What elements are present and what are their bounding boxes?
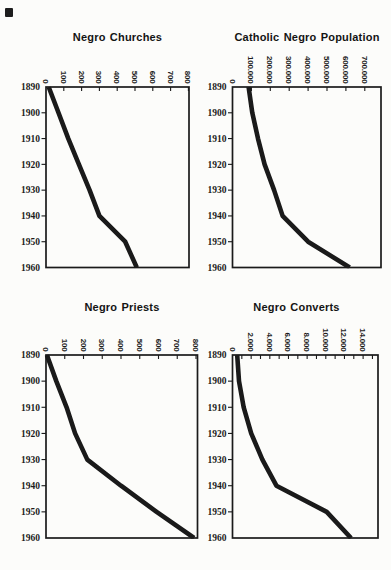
year-label: 1900 bbox=[208, 376, 227, 386]
year-label: 1940 bbox=[208, 211, 227, 221]
year-label: 1950 bbox=[208, 507, 227, 517]
value-tick-label: 0 bbox=[228, 347, 237, 352]
value-tick-label: 0 bbox=[228, 79, 237, 84]
data-line bbox=[249, 87, 350, 268]
value-tick-label: 600 bbox=[154, 339, 163, 352]
year-label: 1890 bbox=[208, 350, 227, 360]
chart-plot-negro-priests: 0100200300400500600700800189019001910192… bbox=[21, 339, 200, 544]
year-label: 1890 bbox=[21, 350, 40, 360]
year-label: 1950 bbox=[21, 507, 40, 517]
data-line bbox=[237, 355, 351, 538]
year-label: 1900 bbox=[208, 108, 227, 118]
year-label: 1890 bbox=[21, 82, 40, 92]
year-label: 1890 bbox=[208, 82, 227, 92]
year-label: 1910 bbox=[21, 403, 40, 413]
year-label: 1950 bbox=[208, 237, 227, 247]
charts-canvas: 0100200300400500600700800189019001910192… bbox=[0, 0, 391, 570]
year-label: 1920 bbox=[21, 429, 40, 439]
year-label: 1910 bbox=[208, 134, 227, 144]
value-tick-label: 300 bbox=[97, 339, 106, 352]
year-label: 1950 bbox=[21, 237, 40, 247]
value-tick-label: 10.000 bbox=[321, 328, 330, 352]
value-tick-label: 0 bbox=[41, 79, 50, 84]
value-tick-label: 400.000 bbox=[303, 56, 312, 84]
value-tick-label: 14.000 bbox=[358, 328, 367, 352]
value-tick-label: 300 bbox=[94, 71, 103, 84]
year-label: 1940 bbox=[208, 481, 227, 491]
plot-border bbox=[46, 355, 198, 538]
year-label: 1920 bbox=[208, 429, 227, 439]
year-label: 1940 bbox=[21, 211, 40, 221]
value-tick-label: 0 bbox=[41, 347, 50, 352]
year-label: 1930 bbox=[208, 185, 227, 195]
value-tick-label: 100 bbox=[59, 71, 68, 84]
value-tick-label: 6.000 bbox=[283, 332, 292, 352]
value-tick-label: 600 bbox=[148, 71, 157, 84]
value-tick-label: 600.000 bbox=[341, 56, 350, 84]
value-tick-label: 4.000 bbox=[265, 332, 274, 352]
value-tick-label: 300.000 bbox=[284, 56, 293, 84]
year-label: 1960 bbox=[208, 533, 227, 543]
year-label: 1930 bbox=[21, 455, 40, 465]
year-label: 1960 bbox=[208, 263, 227, 273]
value-tick-label: 700 bbox=[172, 339, 181, 352]
value-tick-label: 2.000 bbox=[246, 332, 255, 352]
value-tick-label: 400 bbox=[116, 339, 125, 352]
plot-border bbox=[46, 87, 189, 268]
year-label: 1930 bbox=[208, 455, 227, 465]
year-label: 1910 bbox=[208, 403, 227, 413]
value-tick-label: 100 bbox=[60, 339, 69, 352]
value-tick-label: 500 bbox=[135, 339, 144, 352]
value-tick-label: 400 bbox=[112, 71, 121, 84]
year-label: 1940 bbox=[21, 481, 40, 491]
value-tick-label: 800 bbox=[191, 339, 200, 352]
value-tick-label: 500 bbox=[130, 71, 139, 84]
year-label: 1920 bbox=[208, 160, 227, 170]
value-tick-label: 200.000 bbox=[265, 56, 274, 84]
data-line bbox=[47, 355, 194, 538]
year-label: 1900 bbox=[21, 376, 40, 386]
year-label: 1960 bbox=[21, 533, 40, 543]
value-tick-label: 8.000 bbox=[302, 332, 311, 352]
chart-plot-negro-converts: 02.0004.0006.0008.00010.00012.00014.0001… bbox=[208, 328, 379, 543]
year-label: 1910 bbox=[21, 134, 40, 144]
value-tick-label: 800 bbox=[183, 71, 192, 84]
year-label: 1920 bbox=[21, 160, 40, 170]
year-label: 1930 bbox=[21, 185, 40, 195]
value-tick-label: 700.000 bbox=[360, 56, 369, 84]
value-tick-label: 500.000 bbox=[322, 56, 331, 84]
chart-plot-negro-churches: 0100200300400500600700800189019001910192… bbox=[21, 71, 192, 273]
value-tick-label: 200 bbox=[79, 339, 88, 352]
chart-plot-catholic-negro-population: 0100.000200.000300.000400.000500.000600.… bbox=[208, 56, 382, 273]
year-label: 1960 bbox=[21, 263, 40, 273]
year-label: 1900 bbox=[21, 108, 40, 118]
page: Negro Churches Catholic Negro Population… bbox=[0, 0, 391, 570]
value-tick-label: 100.000 bbox=[246, 56, 255, 84]
value-tick-label: 700 bbox=[166, 71, 175, 84]
value-tick-label: 200 bbox=[77, 71, 86, 84]
value-tick-label: 12.000 bbox=[339, 328, 348, 352]
data-line bbox=[49, 87, 137, 268]
